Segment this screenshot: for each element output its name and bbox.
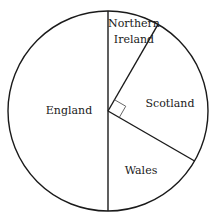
label-wales: Wales [125,164,158,177]
label-scotland: Scotland [146,97,195,110]
label-northern-ireland-line1: Northern [108,17,160,30]
label-northern-ireland-line2: Ireland [114,33,154,46]
label-england: England [46,104,92,117]
pie-sectors [8,11,208,211]
pie-chart: Northern Ireland Scotland Wales England [0,0,213,218]
